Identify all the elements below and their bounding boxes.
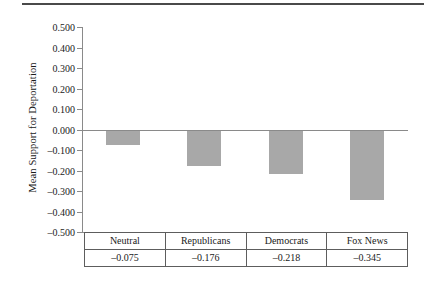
y-tick-label: –0.300 xyxy=(48,186,76,197)
y-tick-mark xyxy=(77,150,82,151)
table-cell-value: –0.218 xyxy=(246,250,327,267)
y-tick-mark xyxy=(77,68,82,69)
table-row-categories: NeutralRepublicansDemocratsFox News xyxy=(85,233,408,250)
y-tick-mark xyxy=(77,27,82,28)
y-tick-mark xyxy=(77,191,82,192)
bar-republicans xyxy=(187,130,221,166)
y-tick-mark xyxy=(77,48,82,49)
y-tick-label: 0.200 xyxy=(53,83,76,94)
table-cell-category: Fox News xyxy=(327,233,408,250)
table-cell-value: –0.075 xyxy=(85,250,166,267)
y-tick-mark xyxy=(77,212,82,213)
y-tick-label: –0.400 xyxy=(48,206,76,217)
table-cell-value: –0.176 xyxy=(165,250,246,267)
bar-fox-news xyxy=(350,130,384,201)
y-tick-label: –0.500 xyxy=(48,227,76,238)
table-cell-category: Republicans xyxy=(165,233,246,250)
table-cell-category: Neutral xyxy=(85,233,166,250)
bar-democrats xyxy=(269,130,303,175)
top-divider-rule xyxy=(22,3,424,5)
table-cell-value: –0.345 xyxy=(327,250,408,267)
y-axis-title: Mean Support for Deportation xyxy=(27,23,38,233)
y-tick-label: 0.300 xyxy=(53,63,76,74)
bar-neutral xyxy=(106,130,140,145)
y-tick-mark xyxy=(77,171,82,172)
y-tick-label: 0.500 xyxy=(53,22,76,33)
table-cell-category: Democrats xyxy=(246,233,327,250)
plot-area: 0.5000.4000.3000.2000.1000.000–0.100–0.2… xyxy=(82,27,408,232)
y-tick-label: 0.400 xyxy=(53,42,76,53)
table-row-values: –0.075–0.176–0.218–0.345 xyxy=(85,250,408,267)
y-tick-label: 0.100 xyxy=(53,104,76,115)
y-tick-label: 0.000 xyxy=(53,124,76,135)
zero-baseline xyxy=(82,130,408,131)
y-tick-mark xyxy=(77,89,82,90)
data-table: NeutralRepublicansDemocratsFox News –0.0… xyxy=(84,232,408,267)
y-tick-label: –0.200 xyxy=(48,165,76,176)
figure-container: Mean Support for Deportation 0.5000.4000… xyxy=(0,0,432,286)
y-tick-mark xyxy=(77,109,82,110)
y-tick-label: –0.100 xyxy=(48,145,76,156)
